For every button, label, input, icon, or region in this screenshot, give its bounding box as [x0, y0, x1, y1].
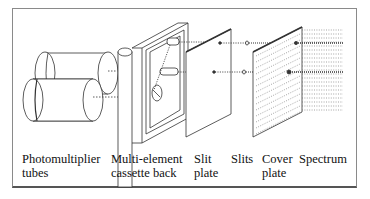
label-line: plate — [194, 166, 218, 180]
label-line: Spectrum — [299, 152, 347, 166]
slit-plate-drawing — [186, 29, 231, 137]
label-line: Cover — [262, 152, 293, 166]
label-line: Slits — [231, 152, 253, 166]
label-slits: Slits — [231, 152, 253, 166]
label-line: cassette back — [111, 166, 183, 180]
label-photomultiplier-tubes: Photomultiplier tubes — [22, 152, 100, 180]
label-line: Multi-element — [111, 152, 183, 166]
label-spectrum: Spectrum — [299, 152, 347, 166]
label-line: Photomultiplier — [22, 152, 100, 166]
label-line: Slit — [194, 152, 218, 166]
label-line: plate — [262, 166, 293, 180]
photomultiplier-tubes-drawing — [23, 52, 118, 121]
label-cassette-back: Multi-element cassette back — [111, 152, 183, 180]
label-cover-plate: Cover plate — [262, 152, 293, 180]
label-line: tubes — [22, 166, 100, 180]
label-slit-plate: Slit plate — [194, 152, 218, 180]
